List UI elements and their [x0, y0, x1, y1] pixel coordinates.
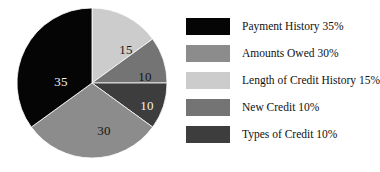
- legend-swatch-amounts-owed: [186, 45, 230, 62]
- pie-chart-svg: 1510103035: [16, 7, 168, 159]
- pie-slice-value-label: 30: [97, 123, 111, 138]
- legend-item: Amounts Owed 30%: [186, 40, 374, 67]
- legend-item: Types of Credit 10%: [186, 121, 374, 148]
- legend-item-label: Payment History 35%: [242, 21, 344, 33]
- pie-slice-value-label: 35: [54, 74, 68, 89]
- legend-swatch-length-of-credit-history: [186, 72, 230, 89]
- pie-slice-value-label: 10: [140, 98, 154, 113]
- legend-swatch-payment-history: [186, 18, 230, 35]
- chart-legend: Payment History 35%Amounts Owed 30%Lengt…: [186, 13, 374, 161]
- legend-swatch-types-of-credit: [186, 126, 230, 143]
- legend-item-label: Amounts Owed 30%: [242, 48, 338, 60]
- legend-item-label: Length of Credit History 15%: [242, 75, 380, 87]
- legend-swatch-new-credit: [186, 99, 230, 116]
- pie-chart: 1510103035: [16, 7, 168, 159]
- legend-item-label: New Credit 10%: [242, 102, 319, 114]
- legend-item: Length of Credit History 15%: [186, 67, 374, 94]
- pie-slice-value-label: 10: [138, 69, 152, 84]
- pie-slice-value-label: 15: [119, 42, 133, 57]
- legend-item: New Credit 10%: [186, 94, 374, 121]
- legend-item-label: Types of Credit 10%: [242, 129, 337, 141]
- legend-item: Payment History 35%: [186, 13, 374, 40]
